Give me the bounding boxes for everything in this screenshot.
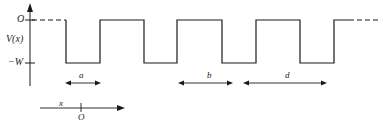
x-axis [40, 103, 125, 112]
potential-well-diagram [0, 0, 383, 125]
period-label: d [285, 71, 290, 80]
v-of-x-label: V(x) [6, 34, 23, 44]
potential-waveform [66, 20, 349, 63]
x-origin-label: O [78, 113, 85, 122]
minus-w-label: −W [8, 57, 23, 67]
dimension-arrow-b [178, 81, 233, 86]
x-axis-label: x [59, 99, 63, 108]
barrier-width-label: b [207, 71, 212, 80]
dimension-arrow-a [65, 81, 101, 86]
dimension-arrow-d [243, 81, 327, 86]
zero-level-label: O [17, 14, 24, 24]
vertical-axis [27, 3, 33, 86]
well-width-label: a [79, 71, 84, 80]
